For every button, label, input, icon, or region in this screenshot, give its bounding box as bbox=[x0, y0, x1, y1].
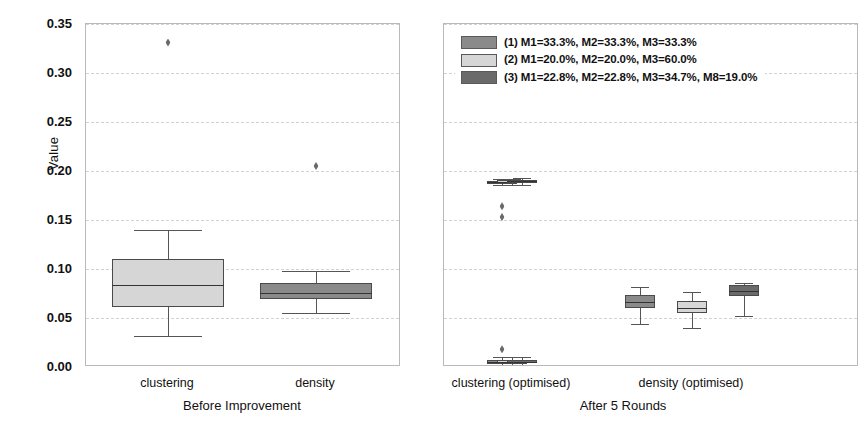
whisker-cap bbox=[134, 230, 201, 231]
legend-swatch bbox=[461, 36, 497, 49]
legend-label: (1) M1=33.3%, M2=33.3%, M3=33.3% bbox=[504, 34, 697, 51]
gridline bbox=[444, 171, 857, 172]
outlier-marker bbox=[500, 202, 505, 210]
gridline bbox=[444, 24, 857, 25]
whisker-cap bbox=[282, 271, 349, 272]
panel-label-after-5-rounds: After 5 Rounds bbox=[580, 398, 667, 413]
whisker-cap bbox=[513, 185, 531, 186]
box bbox=[112, 259, 224, 307]
panel-before-improvement bbox=[85, 23, 400, 366]
boxplot-figure: Value 0.000.050.100.150.200.250.300.35 (… bbox=[0, 0, 859, 432]
y-tick-label: 0.35 bbox=[16, 16, 72, 31]
whisker-cap bbox=[134, 336, 201, 337]
whisker-cap bbox=[631, 287, 649, 288]
legend-item: (3) M1=22.8%, M2=22.8%, M3=34.7%, M8=19.… bbox=[461, 69, 757, 86]
legend-item: (2) M1=20.0%, M2=20.0%, M3=60.0% bbox=[461, 51, 757, 68]
gridline bbox=[86, 318, 399, 319]
legend-label: (2) M1=20.0%, M2=20.0%, M3=60.0% bbox=[504, 51, 697, 68]
outlier-marker bbox=[500, 345, 505, 353]
outlier-marker bbox=[166, 39, 171, 47]
median-line bbox=[729, 291, 759, 292]
gridline bbox=[86, 171, 399, 172]
whisker-cap bbox=[493, 365, 511, 366]
whisker-cap bbox=[513, 178, 531, 179]
y-tick-label: 0.00 bbox=[16, 359, 72, 374]
y-tick-label: 0.10 bbox=[16, 261, 72, 276]
median-line bbox=[625, 302, 655, 303]
gridline bbox=[86, 73, 399, 74]
median-line bbox=[112, 285, 224, 286]
y-tick-label: 0.20 bbox=[16, 163, 72, 178]
y-tick-label: 0.30 bbox=[16, 65, 72, 80]
median-line bbox=[507, 362, 537, 363]
whisker-cap bbox=[631, 324, 649, 325]
gridline bbox=[86, 122, 399, 123]
gridline bbox=[444, 220, 857, 221]
x-tick-density-optimised: density (optimised) bbox=[639, 376, 744, 390]
median-line bbox=[677, 308, 707, 309]
whisker-cap bbox=[735, 316, 753, 317]
whisker-cap bbox=[683, 328, 701, 329]
x-tick-density: density bbox=[295, 376, 335, 390]
gridline bbox=[444, 122, 857, 123]
whisker-cap bbox=[683, 292, 701, 293]
y-axis-tick-labels: 0.000.050.100.150.200.250.300.35 bbox=[10, 0, 72, 432]
gridline bbox=[444, 318, 857, 319]
panel-label-before-improvement: Before Improvement bbox=[183, 398, 301, 413]
whisker-cap bbox=[282, 313, 349, 314]
median-line bbox=[260, 293, 372, 294]
whisker-cap bbox=[513, 357, 531, 358]
y-tick-label: 0.05 bbox=[16, 310, 72, 325]
y-tick-label: 0.15 bbox=[16, 212, 72, 227]
legend-item: (1) M1=33.3%, M2=33.3%, M3=33.3% bbox=[461, 34, 757, 51]
gridline bbox=[444, 269, 857, 270]
legend: (1) M1=33.3%, M2=33.3%, M3=33.3%(2) M1=2… bbox=[455, 30, 765, 91]
legend-swatch bbox=[461, 54, 497, 67]
gridline bbox=[86, 220, 399, 221]
x-tick-clustering-optimised: clustering (optimised) bbox=[452, 376, 571, 390]
legend-swatch bbox=[461, 71, 497, 84]
whisker-cap bbox=[503, 365, 521, 366]
outlier-marker bbox=[314, 162, 319, 170]
box bbox=[260, 283, 372, 300]
y-tick-label: 0.25 bbox=[16, 114, 72, 129]
median-line bbox=[507, 181, 537, 182]
legend-label: (3) M1=22.8%, M2=22.8%, M3=34.7%, M8=19.… bbox=[504, 69, 757, 86]
whisker-cap bbox=[735, 283, 753, 284]
x-tick-clustering: clustering bbox=[140, 376, 194, 390]
gridline bbox=[86, 24, 399, 25]
whisker-cap bbox=[513, 365, 531, 366]
